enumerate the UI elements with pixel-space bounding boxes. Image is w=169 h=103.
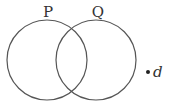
set-q-circle [56, 20, 136, 100]
venn-diagram: P Q d [0, 0, 169, 103]
set-p-circle [7, 20, 87, 100]
set-p-label: P [43, 3, 53, 21]
element-dot-icon [146, 70, 150, 74]
element-d-label: d [153, 63, 163, 81]
set-q-label: Q [92, 3, 104, 21]
